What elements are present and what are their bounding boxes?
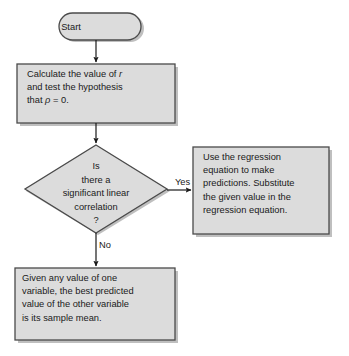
node-calculate[interactable]: [17, 64, 175, 123]
node-decision[interactable]: [25, 145, 167, 233]
node-start[interactable]: [59, 13, 141, 40]
node-sample-mean[interactable]: [15, 268, 175, 340]
edge-label-no: No: [99, 240, 111, 251]
node-regression[interactable]: [193, 147, 329, 234]
flowchart-canvas: Start Calculate the value of rand test t…: [0, 0, 349, 356]
edge-label-yes: Yes: [175, 177, 190, 188]
